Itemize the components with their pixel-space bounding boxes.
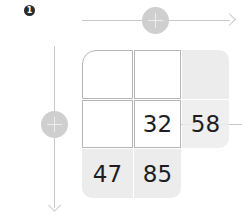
grid-cell-r1c1: 32 <box>134 100 181 148</box>
plus-circle-icon <box>142 7 169 34</box>
grid-cell-r2c0: 47 <box>82 149 133 198</box>
grid-cell-r0c2 <box>182 50 229 99</box>
arrow-down-icon <box>48 199 61 212</box>
cell-value: 47 <box>93 161 122 187</box>
grid-cell-r2c1: 85 <box>134 149 181 198</box>
cell-value: 58 <box>191 111 220 137</box>
arrow-right-icon <box>223 13 236 26</box>
grid-cell-r1c2: 58 <box>182 100 229 148</box>
step-number-badge: 1 <box>24 5 35 16</box>
plus-circle-icon <box>41 111 68 138</box>
cell-value: 32 <box>143 111 172 137</box>
grid-cell-r1c0 <box>82 100 133 148</box>
grid-cell-r0c1 <box>134 50 181 99</box>
grid-cell-r0c0 <box>82 50 133 99</box>
cell-value: 85 <box>143 161 172 187</box>
